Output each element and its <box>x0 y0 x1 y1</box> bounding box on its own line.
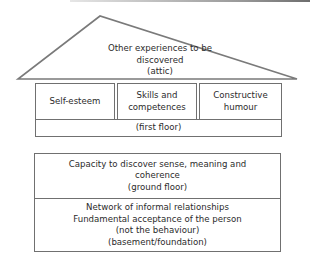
room-skills-competences: Skills and competences <box>117 83 197 120</box>
room-label-line-2: competences <box>128 102 186 114</box>
basement-box: Network of informal relationships Fundam… <box>34 198 281 252</box>
room-label-line-2: humour <box>224 102 258 114</box>
room-label: Self-esteem <box>50 96 101 108</box>
room-constructive-humour: Constructive humour <box>199 83 282 120</box>
room-label-line-1: Skills and <box>137 90 178 102</box>
attic-line-1: Other experiences to be <box>95 43 225 55</box>
attic-label: Other experiences to be discovered (atti… <box>95 43 225 78</box>
ground-floor-box: Capacity to discover sense, meaning and … <box>34 153 281 199</box>
room-self-esteem: Self-esteem <box>35 83 115 120</box>
first-floor-text: (first floor) <box>136 122 182 134</box>
basement-line-2: Fundamental acceptance of the person <box>73 214 242 226</box>
attic-line-3: (attic) <box>95 66 225 78</box>
ground-line-2: coherence <box>135 170 180 182</box>
basement-line-1: Network of informal relationships <box>86 202 229 214</box>
attic-line-2: discovered <box>95 55 225 67</box>
ground-line-3: (ground floor) <box>128 182 187 194</box>
basement-line-4: (basement/foundation) <box>108 237 207 249</box>
first-floor-label: (first floor) <box>35 119 282 137</box>
basement-line-3: (not the behaviour) <box>116 225 200 237</box>
ground-line-1: Capacity to discover sense, meaning and <box>69 159 247 171</box>
room-label-line-1: Constructive <box>213 90 267 102</box>
